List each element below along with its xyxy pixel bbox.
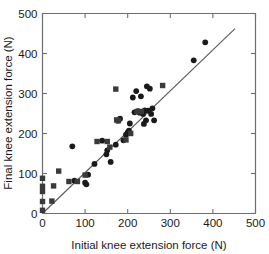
data-point-square bbox=[49, 198, 54, 203]
data-point-square bbox=[40, 189, 45, 194]
x-tick-label: 400 bbox=[203, 217, 222, 229]
x-tick-label: 100 bbox=[76, 217, 95, 229]
data-point-circle bbox=[69, 143, 75, 149]
data-points bbox=[40, 39, 208, 213]
y-tick-label: 400 bbox=[18, 48, 37, 60]
data-point-circle bbox=[113, 142, 119, 148]
x-tick-label: 200 bbox=[118, 217, 137, 229]
y-axis-label: Final knee extension force (N) bbox=[2, 36, 14, 190]
data-point-square bbox=[123, 137, 128, 142]
x-tick-label: 0 bbox=[39, 217, 45, 229]
data-point-circle bbox=[127, 121, 133, 127]
data-point-square bbox=[75, 179, 80, 184]
scatter-plot: 01002003004005000100200300400500 Initial… bbox=[0, 0, 269, 254]
data-point-circle bbox=[108, 159, 114, 165]
data-point-square bbox=[40, 184, 45, 189]
data-point-square bbox=[139, 109, 144, 114]
y-tick-label: 500 bbox=[18, 8, 37, 20]
data-point-circle bbox=[130, 95, 136, 101]
data-point-circle bbox=[138, 93, 144, 99]
data-point-square bbox=[51, 183, 56, 188]
x-axis-label: Initial knee extension force (N) bbox=[71, 239, 226, 251]
chart-figure: 01002003004005000100200300400500 Initial… bbox=[0, 0, 269, 254]
y-tick-label: 0 bbox=[31, 208, 37, 220]
data-point-circle bbox=[99, 138, 105, 144]
data-point-square bbox=[66, 179, 71, 184]
y-tick-label: 200 bbox=[18, 128, 37, 140]
x-tick-label: 300 bbox=[161, 217, 180, 229]
data-point-square bbox=[160, 83, 165, 88]
data-point-square bbox=[40, 199, 45, 204]
y-tick-label: 300 bbox=[18, 88, 37, 100]
x-tick-label: 500 bbox=[246, 217, 265, 229]
data-point-circle bbox=[147, 86, 153, 92]
data-point-square bbox=[82, 172, 87, 177]
data-point-circle bbox=[83, 181, 89, 187]
data-point-circle bbox=[148, 111, 154, 117]
data-point-square bbox=[113, 86, 118, 91]
data-point-circle bbox=[191, 57, 197, 63]
data-point-square bbox=[40, 208, 45, 213]
data-point-square bbox=[40, 176, 45, 181]
regression-line bbox=[43, 29, 236, 214]
data-point-square bbox=[128, 131, 133, 136]
data-point-circle bbox=[150, 105, 156, 111]
data-point-square bbox=[105, 139, 110, 144]
data-point-square bbox=[116, 118, 121, 123]
data-point-square bbox=[56, 168, 61, 173]
data-point-square bbox=[107, 144, 112, 149]
data-point-circle bbox=[151, 117, 157, 123]
data-point-circle bbox=[143, 117, 149, 123]
data-point-circle bbox=[202, 39, 208, 45]
data-point-circle bbox=[92, 161, 98, 167]
data-point-square bbox=[94, 139, 99, 144]
data-point-circle bbox=[133, 88, 139, 94]
y-tick-label: 100 bbox=[18, 168, 37, 180]
